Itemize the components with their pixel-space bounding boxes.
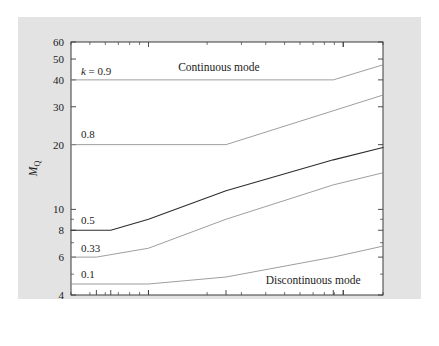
y-tick-label-50: 50: [53, 53, 65, 65]
y-tick-label-60: 60: [53, 36, 65, 48]
curve-label-0.1: 0.1: [81, 268, 95, 280]
svg-text:MQ: MQ: [27, 161, 42, 178]
y-tick-label-8: 8: [59, 224, 65, 236]
curve-label-0.9: k = 0.9: [81, 65, 112, 77]
annotation-continuous-mode: Continuous mode: [178, 61, 259, 73]
y-tick-label-20: 20: [53, 139, 65, 151]
figure-root: 4681020304050605464100250889k = 0.90.80.…: [0, 0, 439, 346]
y-tick-label-40: 40: [53, 74, 65, 86]
curve-label-0.8: 0.8: [81, 128, 95, 140]
curve-label-0.33: 0.33: [81, 242, 101, 254]
figure-panel: 4681020304050605464100250889k = 0.90.80.…: [18, 17, 421, 299]
curve-label-0.5: 0.5: [81, 214, 95, 226]
y-tick-label-6: 6: [59, 251, 65, 263]
y-tick-label-4: 4: [59, 289, 65, 299]
annotation-discontinuous-mode: Discontinuous mode: [266, 274, 361, 286]
y-tick-label-10: 10: [53, 203, 65, 215]
chart-canvas: 4681020304050605464100250889k = 0.90.80.…: [18, 17, 421, 299]
y-axis-title: MQ: [27, 161, 42, 178]
y-tick-label-30: 30: [53, 101, 65, 113]
